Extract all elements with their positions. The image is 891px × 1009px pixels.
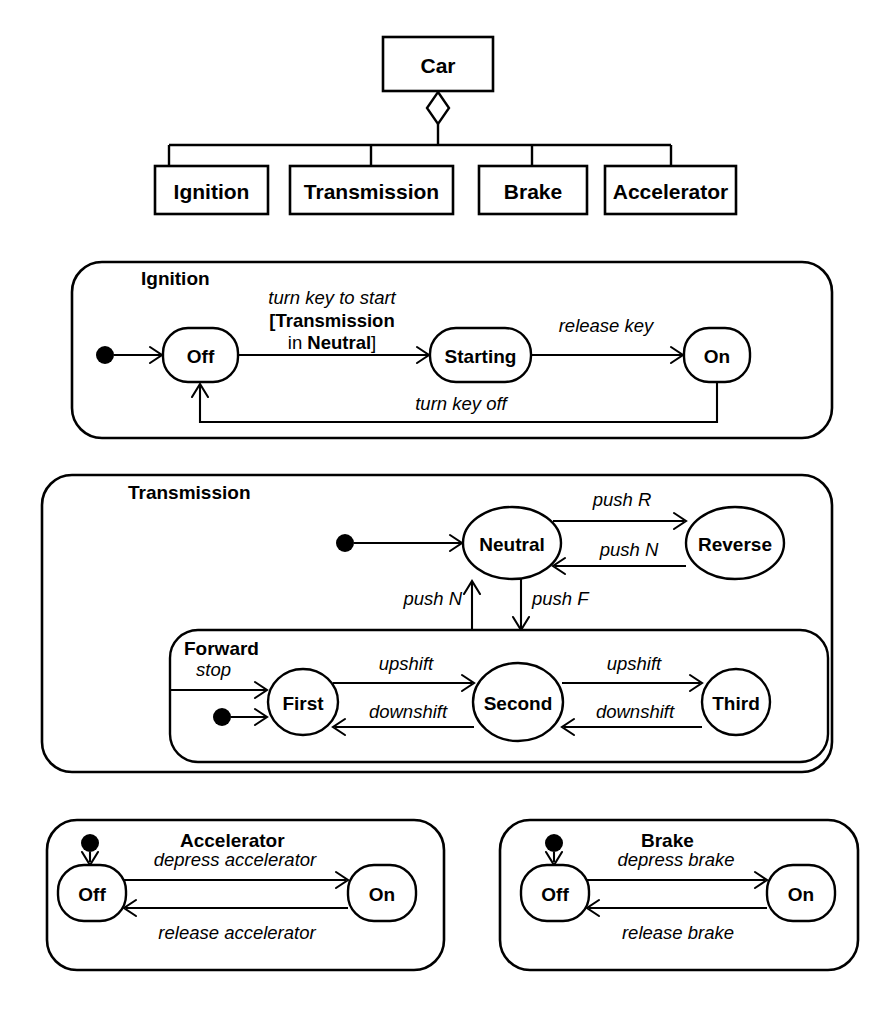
filled-circle-icon — [336, 534, 354, 552]
filled-circle-icon — [81, 834, 99, 852]
diagram-canvas: Car Ignition Transmission Brake — [0, 0, 891, 1009]
transition-accelerator-off-to-on-event: depress accelerator — [154, 849, 317, 870]
state-transmission-neutral-label: Neutral — [479, 534, 544, 555]
state-ignition-on[interactable]: On — [684, 328, 750, 382]
transition-forward-second-to-third-event: upshift — [607, 653, 662, 674]
filled-circle-icon — [96, 346, 114, 364]
state-forward-third[interactable]: Third — [702, 669, 770, 735]
uml-state-diagram: Car Ignition Transmission Brake — [0, 0, 891, 1009]
aggregation-diamond-icon — [427, 92, 449, 124]
class-box-brake-label: Brake — [504, 180, 562, 203]
transition-ignition-off-to-starting-event: turn key to start — [268, 287, 396, 308]
transition-forward-first-to-second-event: upshift — [379, 653, 434, 674]
class-box-accelerator-label: Accelerator — [613, 180, 729, 203]
class-box-ignition[interactable]: Ignition — [155, 166, 268, 214]
region-brake[interactable]: Brake Off On depress brake release bra — [500, 820, 858, 970]
transition-ignition-off-to-starting-guard-line1: [Transmission — [269, 310, 394, 331]
region-accelerator-title: Accelerator — [180, 830, 285, 851]
guard-suffix: ] — [371, 332, 376, 353]
transition-forward-entry-stop-event: stop — [196, 659, 231, 680]
transition-forward-third-to-second-event: downshift — [596, 701, 675, 722]
state-forward-third-label: Third — [712, 693, 760, 714]
state-brake-off-label: Off — [541, 884, 569, 905]
transition-transmission-neutral-to-reverse-event: push R — [592, 489, 652, 510]
transition-transmission-reverse-to-neutral-event: push N — [599, 539, 659, 560]
class-box-transmission-label: Transmission — [304, 180, 439, 203]
state-ignition-starting[interactable]: Starting — [430, 328, 531, 382]
region-forward-title: Forward — [184, 638, 259, 659]
region-brake-title: Brake — [641, 830, 694, 851]
state-brake-on-label: On — [788, 884, 814, 905]
guard-prefix: in — [288, 332, 308, 353]
state-forward-first-label: First — [282, 693, 324, 714]
region-ignition[interactable]: Ignition Off Starting On turn key to sta… — [72, 262, 832, 438]
state-ignition-starting-label: Starting — [445, 346, 517, 367]
transition-accelerator-on-to-off-event: release accelerator — [158, 922, 316, 943]
transition-transmission-neutral-to-forward-event: push F — [531, 588, 590, 609]
state-accelerator-off-label: Off — [78, 884, 106, 905]
transition-ignition-starting-to-on-event: release key — [559, 315, 655, 336]
class-box-accelerator[interactable]: Accelerator — [605, 166, 736, 214]
transition-ignition-off-to-starting-guard-line2: in Neutral] — [288, 332, 376, 353]
transition-brake-off-to-on-event: depress brake — [617, 849, 734, 870]
class-diagram: Car Ignition Transmission Brake — [155, 37, 736, 214]
region-transmission[interactable]: Transmission Neutral Reverse push R pu — [42, 475, 832, 772]
state-transmission-reverse[interactable]: Reverse — [686, 507, 784, 579]
transition-forward-second-to-first-event: downshift — [369, 701, 448, 722]
class-box-car[interactable]: Car — [383, 37, 493, 91]
state-accelerator-on[interactable]: On — [348, 865, 416, 921]
transition-brake-on-to-off-event: release brake — [622, 922, 734, 943]
class-box-brake[interactable]: Brake — [479, 166, 587, 214]
state-forward-second-label: Second — [484, 693, 553, 714]
class-box-ignition-label: Ignition — [174, 180, 250, 203]
state-brake-off[interactable]: Off — [521, 865, 589, 921]
region-forward[interactable]: Forward stop First Second — [170, 630, 828, 762]
state-transmission-reverse-label: Reverse — [698, 534, 772, 555]
state-forward-first[interactable]: First — [268, 669, 338, 735]
transition-ignition-on-to-off-event: turn key off — [415, 393, 508, 414]
region-transmission-title: Transmission — [128, 482, 251, 503]
state-forward-second[interactable]: Second — [473, 663, 563, 741]
state-brake-on[interactable]: On — [767, 865, 835, 921]
filled-circle-icon — [213, 708, 231, 726]
transition-transmission-forward-to-neutral-event: push N — [402, 588, 462, 609]
state-accelerator-off[interactable]: Off — [58, 865, 126, 921]
guard-state-ref: Neutral — [307, 332, 371, 353]
region-accelerator[interactable]: Accelerator Off On depress accelerator — [47, 820, 444, 970]
state-ignition-off[interactable]: Off — [163, 328, 238, 382]
region-ignition-title: Ignition — [141, 268, 210, 289]
class-box-transmission[interactable]: Transmission — [290, 166, 453, 214]
filled-circle-icon — [545, 834, 563, 852]
state-accelerator-on-label: On — [369, 884, 395, 905]
class-box-car-label: Car — [420, 54, 455, 77]
aggregation-connector — [169, 92, 671, 166]
state-ignition-on-label: On — [704, 346, 730, 367]
state-transmission-neutral[interactable]: Neutral — [463, 507, 561, 579]
state-ignition-off-label: Off — [187, 346, 215, 367]
